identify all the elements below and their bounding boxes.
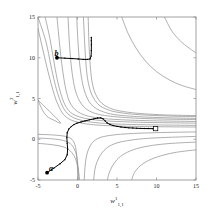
contour-line <box>122 17 196 90</box>
iteration-marker <box>112 125 113 126</box>
iteration-marker <box>68 128 69 129</box>
axis-ticks <box>38 17 196 180</box>
iteration-marker <box>76 122 77 123</box>
contour-line <box>38 138 79 180</box>
x-tick-label: 5 <box>116 183 119 189</box>
iteration-marker <box>87 59 88 60</box>
iteration-marker <box>73 124 74 125</box>
iteration-marker <box>91 40 92 41</box>
iteration-marker <box>106 122 107 123</box>
y-axis-title-subscript: 1,1 <box>15 91 20 97</box>
y-axis-title-base: w <box>11 100 19 105</box>
contour-line <box>68 17 196 120</box>
contour-plot-figure: -5051015 -5051015 w11,1 w21,1 ab <box>0 0 212 213</box>
contour-line <box>132 150 196 180</box>
iteration-marker <box>67 148 68 149</box>
iteration-marker <box>91 50 92 51</box>
iteration-marker <box>67 143 68 144</box>
iteration-marker <box>90 55 91 56</box>
iteration-marker <box>78 58 79 59</box>
contour-line <box>38 134 78 180</box>
y-axis-title-superscript: 2 <box>9 98 14 101</box>
label-b: b <box>55 50 59 58</box>
iteration-marker <box>59 163 60 164</box>
iteration-marker <box>120 126 121 127</box>
iteration-marker <box>128 127 129 128</box>
iteration-marker <box>66 137 67 138</box>
axes-frame <box>38 17 196 180</box>
x-tick-label: 15 <box>193 183 199 189</box>
contour-line <box>108 142 196 180</box>
iteration-marker <box>136 128 137 129</box>
iteration-marker <box>67 132 68 133</box>
iteration-marker <box>84 120 85 121</box>
iteration-marker <box>148 128 149 129</box>
contour-line <box>77 17 196 118</box>
y-tick-label: 15 <box>18 14 35 20</box>
iteration-marker <box>71 58 72 59</box>
x-tick-label: 10 <box>154 183 160 189</box>
iteration-marker <box>91 37 92 38</box>
iteration-marker <box>67 154 68 155</box>
iteration-marker <box>53 167 54 168</box>
x-axis-title-subscript: 1,1 <box>117 202 123 207</box>
contour-lines <box>38 17 196 180</box>
y-tick-label: -5 <box>18 177 35 183</box>
iteration-marker <box>132 127 133 128</box>
iteration-marker <box>83 59 84 60</box>
iteration-marker <box>70 126 71 127</box>
iteration-marker <box>109 124 110 125</box>
iteration-marker <box>102 118 103 119</box>
label-a: a <box>49 165 53 173</box>
contour-line <box>38 143 79 180</box>
trajectory-path-b <box>57 37 91 59</box>
iteration-marker <box>80 121 81 122</box>
iteration-marker <box>116 126 117 127</box>
iteration-marker <box>64 57 65 58</box>
contour-line <box>57 17 196 121</box>
contour-line <box>38 17 196 125</box>
y-tick-label: 5 <box>18 96 35 102</box>
contour-line <box>164 17 196 53</box>
iteration-marker <box>124 127 125 128</box>
y-axis-title: w21,1 <box>9 91 20 104</box>
iteration-marker <box>91 44 92 45</box>
iteration-marker <box>89 119 90 120</box>
y-tick-label: 10 <box>18 55 35 61</box>
iteration-marker <box>89 58 90 59</box>
x-tick-label: -5 <box>36 183 41 189</box>
contour-line <box>88 17 196 116</box>
iteration-marker <box>93 118 94 119</box>
iteration-marker <box>104 120 105 121</box>
end-marker-a <box>154 127 158 131</box>
iteration-marker <box>140 128 141 129</box>
y-tick-label: 0 <box>18 136 35 142</box>
x-axis-title: w11,1 <box>110 196 123 207</box>
x-axis-title-superscript: 1 <box>115 196 118 201</box>
x-tick-label: 0 <box>76 183 79 189</box>
iteration-marker <box>144 128 145 129</box>
iteration-marker <box>64 159 65 160</box>
iteration-marker <box>152 128 153 129</box>
iteration-marker <box>97 117 98 118</box>
iteration-marker <box>100 117 101 118</box>
